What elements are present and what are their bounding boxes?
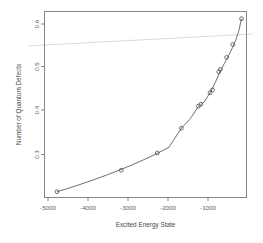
- y-axis-title: Number of Quantum Defects: [15, 64, 23, 145]
- x-tick-label: -2000: [160, 204, 176, 211]
- x-tick-label: -4000: [80, 204, 96, 211]
- x-tick-label: -5000: [40, 204, 56, 211]
- fitted-curve: [57, 19, 242, 192]
- y-tick-label: 0.6: [33, 19, 40, 28]
- x-axis-title: Excited Energy State: [116, 221, 176, 229]
- x-axis-tick-labels: -5000 -4000 -3000 -2000 -1000: [40, 204, 216, 211]
- reference-line-group: [28, 34, 253, 46]
- y-axis-tick-labels: 0.6 0.5 0.4 0.3: [33, 19, 40, 159]
- y-tick-label: 0.5: [33, 62, 40, 71]
- reference-line: [28, 34, 253, 46]
- y-axis-ticks: [41, 24, 45, 155]
- y-tick-label: 0.4: [33, 105, 40, 114]
- chart-figure: 0.6 0.5 0.4 0.3 -5000 -4000 -3000 -2000 …: [0, 0, 263, 243]
- x-tick-label: -1000: [200, 204, 216, 211]
- y-tick-label: 0.3: [33, 150, 40, 159]
- quantum-defects-scatter-plot: 0.6 0.5 0.4 0.3 -5000 -4000 -3000 -2000 …: [0, 0, 263, 243]
- x-axis-ticks: [48, 198, 208, 202]
- x-tick-label: -3000: [120, 204, 136, 211]
